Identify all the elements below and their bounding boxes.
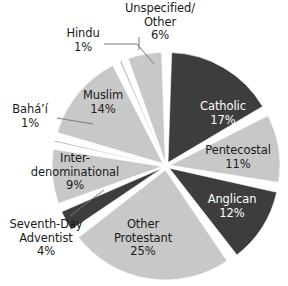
slice-label-hindu-name: Hindu <box>53 27 113 41</box>
pie-chart: Unspecified/ Other 6% Hindu 1% Bahá’í 1%… <box>0 0 288 286</box>
slice-label-inter-denominational-line2: denominational <box>30 166 120 180</box>
slice-label-bahai: Bahá’í 1% <box>2 103 58 130</box>
slice-label-seventh-day-adventist: Seventh-Day Adventist 4% <box>0 218 92 259</box>
slice-label-other-protestant-line1: Other <box>106 218 180 232</box>
slice-label-hindu: Hindu 1% <box>53 27 113 54</box>
slice-value-bahai: 1% <box>2 117 58 131</box>
slice-label-unspecified-other-line2: Other <box>113 16 207 30</box>
slice-label-other-protestant: Other Protestant 25% <box>106 218 180 259</box>
slice-label-anglican-name: Anglican <box>196 193 268 207</box>
slice-value-seventh-day-adventist: 4% <box>0 245 92 259</box>
slice-label-seventh-day-adventist-line2: Adventist <box>0 232 92 246</box>
slice-value-catholic: 17% <box>192 114 254 128</box>
slice-label-bahai-name: Bahá’í <box>2 103 58 117</box>
slice-label-inter-denominational-line1: Inter- <box>30 152 120 166</box>
slice-value-other-protestant: 25% <box>106 245 180 259</box>
slice-label-unspecified-other: Unspecified/ Other 6% <box>113 2 207 43</box>
slice-label-pentecostal: Pentecostal 11% <box>196 144 280 171</box>
slice-value-anglican: 12% <box>196 207 268 221</box>
slice-label-pentecostal-name: Pentecostal <box>196 144 280 158</box>
slice-label-unspecified-other-line1: Unspecified/ <box>113 2 207 16</box>
slice-label-anglican: Anglican 12% <box>196 193 268 220</box>
slice-label-catholic: Catholic 17% <box>192 100 254 127</box>
slice-label-seventh-day-adventist-line1: Seventh-Day <box>0 218 92 232</box>
slice-label-muslim-name: Muslim <box>76 89 130 103</box>
slice-value-pentecostal: 11% <box>196 158 280 172</box>
slice-value-inter-denominational: 9% <box>30 179 120 193</box>
slice-label-muslim: Muslim 14% <box>76 89 130 116</box>
slice-value-unspecified-other: 6% <box>113 29 207 43</box>
slice-value-hindu: 1% <box>53 41 113 55</box>
slice-value-muslim: 14% <box>76 103 130 117</box>
slice-label-inter-denominational: Inter- denominational 9% <box>30 152 120 193</box>
slice-label-other-protestant-line2: Protestant <box>106 232 180 246</box>
slice-label-catholic-name: Catholic <box>192 100 254 114</box>
